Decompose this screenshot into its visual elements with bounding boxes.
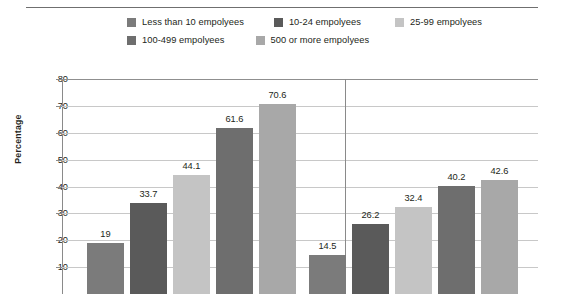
bar-group-2-series-3[interactable]	[395, 207, 432, 294]
bar-chart: Percentage 8070605040302010 1933.744.161…	[0, 60, 563, 294]
gridline-80	[62, 79, 538, 80]
legend-label-less-than-10: Less than 10 empolyees	[142, 17, 244, 27]
bar-group-1-series-4[interactable]	[216, 128, 253, 294]
legend-label-100-499: 100-499 empolyees	[142, 35, 225, 45]
legend-swatch-10-24	[274, 18, 283, 27]
bar-value-label-1-5: 70.6	[268, 90, 286, 100]
bar-value-label-1-1: 19	[100, 229, 110, 239]
legend-item-100-499[interactable]: 100-499 empolyees	[127, 35, 225, 45]
bar-value-label-1-3: 44.1	[182, 161, 200, 171]
gridline-60	[62, 133, 538, 134]
bar-group-2-series-4[interactable]	[438, 186, 475, 294]
legend-swatch-500-or-more	[256, 36, 265, 45]
bar-group-1-series-3[interactable]	[173, 175, 210, 294]
legend-label-500-or-more: 500 or more empolyees	[271, 35, 370, 45]
y-axis-title: Percentage	[13, 104, 23, 174]
bar-value-label-2-2: 26.2	[361, 210, 379, 220]
gridline-70	[62, 106, 538, 107]
legend-item-25-99[interactable]: 25-99 empolyees	[395, 17, 482, 27]
bar-value-label-2-4: 40.2	[447, 172, 465, 182]
bar-value-label-2-3: 32.4	[404, 193, 422, 203]
clipped-caption-above	[26, 0, 538, 3]
legend-swatch-25-99	[395, 18, 404, 27]
bar-value-label-1-4: 61.6	[225, 114, 243, 124]
bar-value-label-2-1: 14.5	[318, 241, 336, 251]
bar-group-2-series-2[interactable]	[352, 224, 389, 294]
legend-label-25-99: 25-99 empolyees	[410, 17, 482, 27]
header-divider-rule	[26, 7, 538, 8]
bar-group-1-series-1[interactable]	[87, 243, 124, 294]
legend-row-1: Less than 10 empolyees 10-24 empolyees 2…	[0, 13, 563, 31]
bar-value-label-1-2: 33.7	[139, 189, 157, 199]
legend-label-10-24: 10-24 empolyees	[289, 17, 361, 27]
bar-group-1-series-5[interactable]	[259, 104, 296, 294]
legend-row-2: 100-499 empolyees 500 or more empolyees	[0, 31, 563, 49]
bar-group-1-series-2[interactable]	[130, 203, 167, 294]
bar-value-label-2-5: 42.6	[490, 166, 508, 176]
gridline-50	[62, 160, 538, 161]
bar-group-2-series-5[interactable]	[481, 180, 518, 294]
legend-item-500-or-more[interactable]: 500 or more empolyees	[256, 35, 370, 45]
chart-legend: Less than 10 empolyees 10-24 empolyees 2…	[0, 13, 563, 49]
plot-area: 1933.744.161.670.614.526.232.440.242.6	[62, 79, 538, 294]
legend-item-less-than-10[interactable]: Less than 10 empolyees	[127, 17, 244, 27]
legend-swatch-less-than-10	[127, 18, 136, 27]
bar-group-2-series-1[interactable]	[309, 255, 346, 294]
legend-swatch-100-499	[127, 36, 136, 45]
legend-item-10-24[interactable]: 10-24 empolyees	[274, 17, 361, 27]
